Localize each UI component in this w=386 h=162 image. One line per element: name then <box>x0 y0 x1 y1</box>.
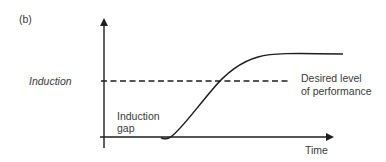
induction-gap-label-line1: Induction <box>117 110 160 122</box>
induction-level-label: Induction <box>29 75 72 87</box>
induction-gap-label-line2: gap <box>117 122 135 134</box>
x-axis-label: Time <box>305 144 328 156</box>
desired-level-label-line2: of performance <box>301 85 372 97</box>
panel-label: (b) <box>19 13 32 25</box>
desired-level-label-line1: Desired level <box>301 72 362 84</box>
